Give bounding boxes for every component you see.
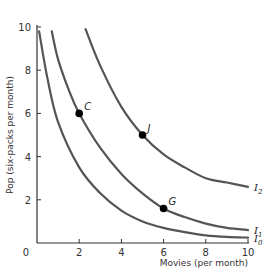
- x-tick-label: 6: [160, 247, 166, 258]
- y-tick-label: 8: [25, 65, 31, 76]
- point-j: [139, 131, 147, 139]
- x-axis-title: Movies (per month): [160, 258, 248, 268]
- y-tick-label: 6: [25, 108, 31, 119]
- indifference-curve-chart: 0246810246810 I0I1I2 CJG Movies (per mon…: [0, 0, 272, 278]
- point-label-j: J: [146, 123, 151, 134]
- indifference-curves: I0I1I2: [39, 29, 263, 246]
- axes: 0246810246810: [18, 22, 254, 258]
- point-g: [160, 205, 168, 213]
- y-tick-label: 2: [25, 195, 31, 206]
- curve-label-i2: I2: [253, 182, 263, 196]
- y-axis-title: Pop (six-packs per month): [5, 76, 15, 194]
- y-tick-label: 10: [18, 22, 31, 33]
- origin-label: 0: [23, 247, 29, 258]
- data-points: CJG: [75, 101, 176, 212]
- x-tick-label: 4: [118, 247, 124, 258]
- curve-i2: [86, 29, 248, 187]
- point-label-c: C: [84, 101, 91, 112]
- point-c: [75, 110, 83, 118]
- y-tick-label: 4: [25, 152, 31, 163]
- x-tick-label: 8: [203, 247, 209, 258]
- x-tick-label: 2: [76, 247, 82, 258]
- x-tick-label: 10: [242, 247, 255, 258]
- point-label-g: G: [169, 196, 177, 207]
